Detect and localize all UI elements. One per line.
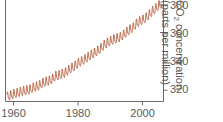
y-axis-title-co: CO: [174, 0, 186, 17]
y-axis-title-line-2: (parts per million): [159, 0, 173, 100]
y-axis-title-concentration: concentration: [174, 21, 186, 90]
x-tick-label: 2000: [130, 108, 154, 119]
y-axis-title-subscript: 2: [172, 17, 181, 21]
co2-data-series: [7, 1, 162, 101]
x-tick-label: 1960: [1, 108, 25, 119]
y-axis-title: CO2 concentration (parts per million): [150, 0, 186, 100]
axis-spines: [6, 0, 164, 102]
x-tick-label: 1980: [66, 108, 90, 119]
chart-plot-area: [0, 0, 223, 122]
keeling-curve-line: [7, 1, 162, 101]
y-axis-title-line-1: CO2 concentration: [172, 0, 186, 100]
x-axis-tick-marks: [14, 102, 143, 106]
co2-concentration-chart: 320340360380 196019802000 CO2 concentrat…: [0, 0, 223, 122]
